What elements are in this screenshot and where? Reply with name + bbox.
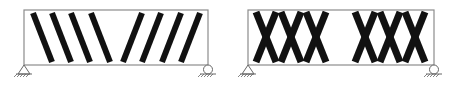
ground-hatch: [424, 74, 427, 77]
pin-support-icon: [14, 65, 32, 77]
pin-triangle: [242, 65, 254, 74]
crack-line: [91, 13, 110, 62]
roller-circle: [430, 65, 439, 74]
beam-shear-cracks: [14, 10, 216, 77]
crack-line: [162, 13, 181, 62]
crack-line: [123, 13, 142, 62]
crack-line: [181, 13, 200, 62]
crack-pattern-diagram: [0, 0, 456, 86]
crack-line: [142, 13, 161, 62]
pin-support-icon: [238, 65, 256, 77]
ground-hatch: [198, 74, 201, 77]
roller-support-icon: [424, 65, 442, 77]
roller-support-icon: [198, 65, 216, 77]
ground-hatch: [14, 74, 17, 77]
crack-line: [71, 13, 90, 62]
crack-line: [33, 13, 52, 62]
roller-circle: [204, 65, 213, 74]
crack-line: [52, 13, 71, 62]
ground-hatch: [238, 74, 241, 77]
beam-x-cracks: [238, 10, 442, 77]
pin-triangle: [18, 65, 30, 74]
